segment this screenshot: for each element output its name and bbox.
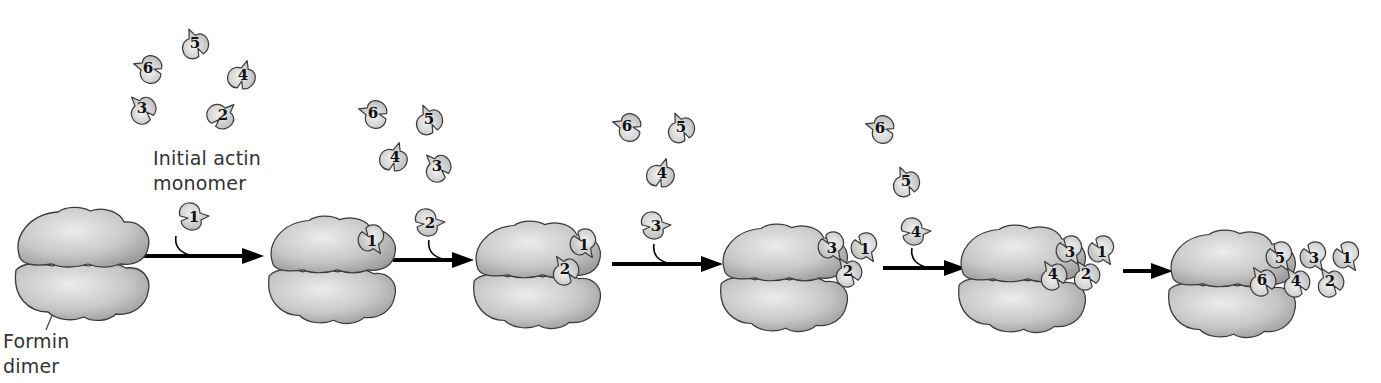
reaction-arrow-5 [1123, 263, 1173, 279]
monomer-number: 6 [875, 119, 885, 137]
initial-actin-monomer-label: Initial actin monomer [153, 146, 261, 196]
reaction-arrow-4 [883, 248, 966, 276]
monomer-entry-hook [429, 240, 447, 260]
monomer-number: 1 [579, 236, 589, 254]
formin-lower-lobe [269, 269, 396, 324]
monomer-number: 6 [622, 117, 632, 135]
monomer-number: 4 [390, 148, 400, 166]
monomer-entry-hook [176, 236, 194, 256]
monomer-number: 6 [368, 104, 378, 122]
monomer-number: 4 [238, 66, 248, 84]
monomer-number: 1 [1097, 243, 1107, 261]
formin-lower-lobe [721, 277, 848, 332]
monomer-number: 3 [137, 99, 147, 117]
monomer-number: 2 [560, 260, 570, 278]
formin-dimer-1 [15, 207, 148, 320]
formin-label-line1: Formin [3, 329, 69, 354]
formin-upper-lobe [18, 207, 149, 267]
monomer-number: 1 [367, 232, 377, 250]
monomer-number: 2 [1081, 265, 1091, 283]
monomer-number: 4 [657, 164, 667, 182]
arrowhead-icon [701, 256, 723, 272]
formin-dimer-label: Formin dimer [3, 329, 69, 379]
formin-lower-lobe [15, 263, 148, 320]
monomer-number: 3 [651, 217, 661, 235]
monomer-number: 5 [190, 34, 200, 52]
monomer-number: 5 [424, 110, 434, 128]
arrowhead-icon [242, 248, 264, 264]
monomer-number: 2 [843, 262, 853, 280]
monomer-number: 5 [676, 118, 686, 136]
formin-lower-lobe [1169, 283, 1296, 338]
monomer-entry-hook [654, 244, 672, 264]
monomer-number: 1 [860, 240, 870, 258]
initial-label-line2: monomer [153, 171, 261, 196]
monomer-number: 2 [425, 214, 435, 232]
initial-label-line1: Initial actin [153, 146, 261, 171]
monomer-number: 3 [1065, 243, 1075, 261]
monomer-number: 5 [901, 172, 911, 190]
reaction-arrow-3 [612, 244, 723, 272]
monomer-number: 2 [218, 106, 228, 124]
monomer-number: 4 [911, 223, 921, 241]
monomer-number: 6 [143, 59, 153, 77]
formin-label-line2: dimer [3, 354, 69, 379]
monomer-number: 2 [1325, 272, 1335, 290]
monomer-number: 4 [1048, 265, 1058, 283]
monomer-number: 6 [1257, 271, 1267, 289]
monomer-number: 1 [189, 208, 199, 226]
reaction-arrow-2 [393, 240, 474, 268]
formin-lower-lobe [959, 278, 1086, 333]
monomer-entry-hook [912, 248, 930, 268]
formin-lower-lobe [474, 274, 601, 329]
arrowhead-icon [1151, 263, 1173, 279]
monomer-number: 1 [1342, 249, 1352, 267]
monomer-number: 3 [1309, 249, 1319, 267]
arrowhead-icon [452, 252, 474, 268]
monomer-number: 4 [1291, 272, 1301, 290]
monomer-number: 3 [827, 239, 837, 257]
monomer-number: 5 [1275, 249, 1285, 267]
reaction-arrow-1 [140, 236, 264, 264]
monomer-number: 3 [432, 157, 442, 175]
